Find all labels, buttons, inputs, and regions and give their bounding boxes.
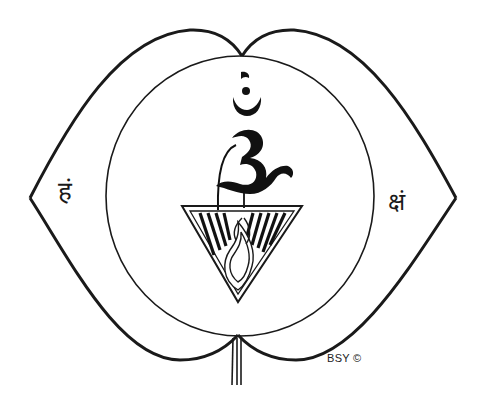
chandrabindu-icon — [233, 72, 261, 116]
left-petal-syllable: हं — [58, 172, 72, 208]
copyright-label: BSY © — [327, 352, 361, 364]
triangle-emblem — [182, 206, 302, 302]
om-icon — [216, 130, 293, 210]
inner-circle — [106, 56, 374, 336]
ajna-chakra-illustration — [0, 0, 486, 400]
right-petal-syllable: क्षं — [388, 184, 405, 217]
stem — [232, 338, 241, 385]
